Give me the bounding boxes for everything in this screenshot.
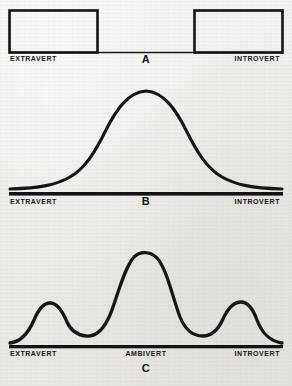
panel-a-bar-introvert [195,11,283,53]
panel-b-letter: B [142,195,150,207]
panel-b-normal-curve [10,91,282,189]
panel-a-label-introvert: INTROVERT [235,55,280,62]
panel-b-label-introvert: INTROVERT [235,198,280,205]
panel-a-bar-extravert [10,11,98,53]
panel-c-trimodal-curve [10,253,282,343]
panel-c-baseline [9,345,283,348]
panel-a-plot [0,0,292,58]
panel-b-label-extravert: EXTRAVERT [10,198,57,205]
panel-c: EXTRAVERT AMBIVERT INTROVERT C [0,238,292,386]
panel-b: EXTRAVERT INTROVERT B [0,78,292,212]
panel-a-label-extravert: EXTRAVERT [10,55,57,62]
panel-a: EXTRAVERT INTROVERT A [0,0,292,72]
panel-c-letter: C [142,362,150,374]
panel-a-letter: A [142,53,150,65]
panel-b-plot [0,78,292,198]
panel-c-label-extravert: EXTRAVERT [10,350,57,357]
panel-c-label-introvert: INTROVERT [235,350,280,357]
panel-c-label-ambivert: AMBIVERT [126,350,167,357]
figure-root: EXTRAVERT INTROVERT A EXTRAVERT INTROVER… [0,0,292,386]
panel-c-plot [0,238,292,350]
